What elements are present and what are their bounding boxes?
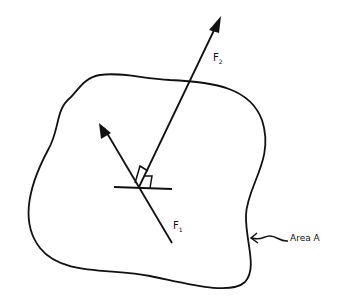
area-pointer-arrow-icon <box>252 236 288 241</box>
label-f2-subscript: 2 <box>219 58 223 65</box>
label-f1-subscript: 1 <box>179 226 183 233</box>
diagram-canvas <box>0 0 337 305</box>
label-area-a: Area A <box>290 233 320 243</box>
force-f2-arrowhead-icon <box>209 16 221 33</box>
right-angle-marker-2-icon <box>145 176 152 188</box>
label-f1: F1 <box>173 220 183 233</box>
force-f2-line <box>139 24 217 187</box>
force-f1-line <box>104 128 172 243</box>
label-f2: F2 <box>213 52 223 65</box>
area-boundary <box>29 74 266 288</box>
surface-line <box>114 187 172 189</box>
